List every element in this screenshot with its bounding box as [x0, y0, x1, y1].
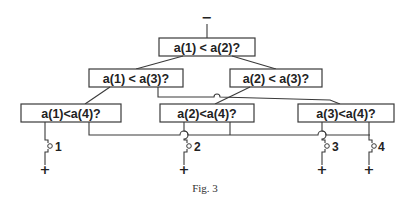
output-1-plus: +	[40, 162, 51, 177]
svg-text:a(2) < a(3)?: a(2) < a(3)?	[243, 72, 309, 86]
svg-text:a(3)<a(4)?: a(3)<a(4)?	[316, 107, 375, 121]
node-root: a(1) < a(2)?	[159, 38, 255, 56]
svg-text:a(1) < a(2)?: a(1) < a(2)?	[174, 41, 240, 55]
node-a2-lt-a3: a(2) < a(3)?	[230, 69, 322, 87]
wire-l2left-to-a1a4	[85, 87, 110, 104]
wire-l2left-to-a3a4	[158, 87, 340, 104]
figure-caption: Fig. 3	[192, 182, 218, 194]
output-4: 4 +	[364, 135, 385, 177]
output-3-plus: +	[317, 162, 328, 177]
comparison-tree-diagram: − a(1) < a(2)? a(1) < a(3)? a(2) < a(3)?…	[0, 0, 412, 200]
node-a3-lt-a4: a(3)<a(4)?	[298, 104, 394, 122]
svg-text:a(1) < a(3)?: a(1) < a(3)?	[103, 72, 169, 86]
svg-text:a(1)<a(4)?: a(1)<a(4)?	[41, 107, 100, 121]
svg-text:a(2)<a(4)?: a(2)<a(4)?	[177, 107, 236, 121]
node-a1-lt-a4: a(1)<a(4)?	[21, 104, 121, 122]
wire-root-to-right	[232, 56, 276, 69]
svg-text:2: 2	[194, 140, 201, 154]
svg-text:4: 4	[378, 140, 385, 154]
output-2: 2 +	[179, 122, 201, 177]
wire-root-to-left	[136, 56, 183, 69]
output-4-plus: +	[364, 162, 375, 177]
svg-text:1: 1	[55, 140, 62, 154]
input-minus-sign: −	[202, 10, 213, 25]
output-2-plus: +	[179, 162, 190, 177]
node-a2-lt-a4: a(2)<a(4)?	[160, 104, 254, 122]
node-a1-lt-a3: a(1) < a(3)?	[89, 69, 183, 87]
output-1: 1 +	[40, 122, 62, 177]
svg-text:3: 3	[332, 140, 339, 154]
output-3: 3 +	[317, 122, 339, 177]
